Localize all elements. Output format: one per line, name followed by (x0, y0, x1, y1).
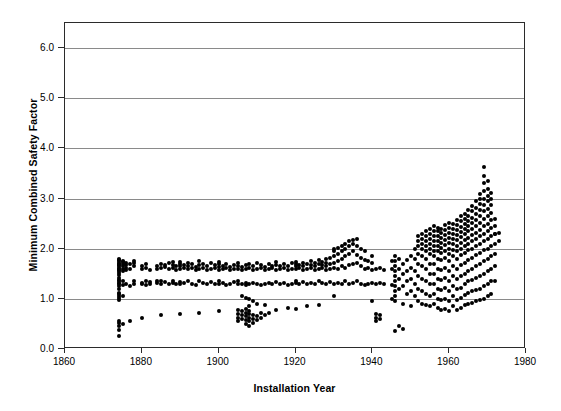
data-point (474, 237, 478, 241)
data-point (305, 304, 309, 308)
y-tick-label: 2.0 (18, 242, 54, 253)
data-point (413, 294, 417, 298)
data-point (482, 224, 486, 228)
data-point (363, 249, 367, 253)
data-point (393, 299, 397, 303)
data-point (409, 304, 413, 308)
data-point (401, 302, 405, 306)
data-point (336, 252, 340, 256)
data-point (355, 237, 359, 241)
data-point (482, 232, 486, 236)
y-tick-mark (58, 147, 64, 148)
data-point (393, 294, 397, 298)
data-point (432, 292, 436, 296)
data-point (259, 316, 263, 320)
gridline (65, 148, 524, 149)
data-point (117, 328, 121, 332)
data-point (447, 299, 451, 303)
data-point (432, 272, 436, 276)
data-point (447, 279, 451, 283)
y-tick-label: 6.0 (18, 42, 54, 53)
data-point (247, 324, 251, 328)
data-point (482, 297, 486, 301)
data-point (459, 296, 463, 300)
data-point (459, 306, 463, 310)
data-point (194, 283, 198, 287)
x-tick-label: 1980 (501, 356, 549, 367)
data-point (409, 289, 413, 293)
gridline (65, 199, 524, 200)
x-tick-mark (141, 348, 142, 353)
data-point (255, 302, 259, 306)
data-point (482, 217, 486, 221)
data-point (140, 316, 144, 320)
data-point (482, 203, 486, 207)
data-point (336, 259, 340, 263)
data-point (486, 229, 490, 233)
x-tick-label: 1860 (40, 356, 88, 367)
x-tick-label: 1960 (424, 356, 472, 367)
y-tick-label: 4.0 (18, 142, 54, 153)
data-point (121, 294, 125, 298)
data-point (455, 238, 459, 242)
data-point (382, 282, 386, 286)
data-point (478, 251, 482, 255)
data-point (413, 269, 417, 273)
data-point (455, 267, 459, 271)
data-point (236, 319, 240, 323)
data-point (478, 228, 482, 232)
data-point (482, 165, 486, 169)
data-point (459, 241, 463, 245)
data-point (447, 269, 451, 273)
data-point (486, 187, 490, 191)
data-point (217, 309, 221, 313)
data-point (489, 191, 493, 195)
data-point (493, 217, 497, 221)
data-point (482, 284, 486, 288)
data-point (447, 259, 451, 263)
x-tick-label: 1880 (117, 356, 165, 367)
data-point (486, 222, 490, 226)
data-point (336, 267, 340, 271)
data-point (497, 231, 501, 235)
data-point (263, 303, 267, 307)
data-point (482, 272, 486, 276)
data-point (482, 181, 486, 185)
data-point (486, 207, 490, 211)
data-point (401, 262, 405, 266)
x-tick-mark (448, 348, 449, 353)
data-point (459, 286, 463, 290)
data-point (171, 260, 175, 264)
data-point (401, 284, 405, 288)
data-point (455, 277, 459, 281)
data-point (455, 257, 459, 261)
data-point (493, 279, 497, 283)
data-point (493, 264, 497, 268)
data-point (121, 322, 125, 326)
data-point (413, 282, 417, 286)
data-point (378, 313, 382, 317)
y-tick-label: 5.0 (18, 92, 54, 103)
y-tick-mark (58, 97, 64, 98)
data-point (482, 174, 486, 178)
data-point (251, 321, 255, 325)
x-tick-label: 1940 (347, 356, 395, 367)
data-point (482, 239, 486, 243)
data-point (393, 329, 397, 333)
data-point (294, 307, 298, 311)
x-tick-label: 1920 (271, 356, 319, 367)
data-point (482, 259, 486, 263)
x-tick-mark (295, 348, 296, 353)
data-point (424, 257, 428, 261)
data-point (413, 257, 417, 261)
data-point (493, 224, 497, 228)
data-point (447, 289, 451, 293)
data-point (178, 312, 182, 316)
data-point (478, 192, 482, 196)
data-point (401, 272, 405, 276)
data-point (313, 282, 317, 286)
data-point (401, 327, 405, 331)
y-tick-mark (58, 198, 64, 199)
data-point (217, 260, 221, 264)
scatter-chart: Minimum Combined Safety Factor 0.01.02.0… (0, 0, 561, 411)
